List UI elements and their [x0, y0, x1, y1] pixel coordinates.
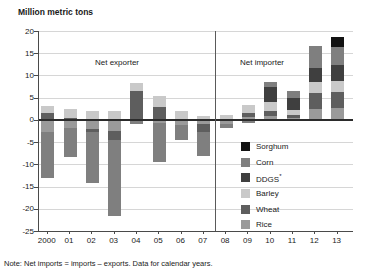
plot-area: Net exporter Net importer SorghumCornDDG… [38, 31, 353, 232]
legend-item-ddgs: DDGS* [241, 170, 288, 186]
bar-segment-rice-12 [309, 109, 322, 120]
bar-segment-sorghum-13 [331, 37, 344, 48]
gridline [39, 75, 353, 76]
bar-segment-wheat-11 [287, 115, 300, 118]
x-axis-tick [314, 231, 315, 234]
bar-segment-ddgs-11 [287, 98, 300, 110]
x-axis-tick [225, 231, 226, 234]
x-axis-label-13: 13 [322, 236, 352, 245]
y-axis-tick [34, 53, 38, 54]
y-axis-tick [34, 231, 38, 232]
y-axis-tick [34, 164, 38, 165]
gridline [39, 187, 353, 188]
legend-item-corn: Corn [241, 155, 288, 171]
bar-segment-wheat-04 [130, 91, 143, 119]
bar-segment-rice-2000 [41, 120, 54, 132]
chart-figure: Million metric tons Net exporter Net imp… [0, 0, 366, 275]
legend-item-wheat: Wheat [241, 201, 288, 217]
bar-segment-wheat-07 [197, 124, 210, 132]
exporter-importer-divider [215, 31, 216, 231]
y-axis-label: -20 [8, 204, 34, 213]
bar-segment-barley-05 [153, 96, 166, 107]
bar-segment-corn-04 [130, 121, 143, 124]
legend-label-ddgs: DDGS* [256, 173, 281, 184]
x-axis-tick [69, 231, 70, 234]
bar-segment-barley-13 [331, 81, 344, 92]
bar-segment-wheat-12 [309, 93, 322, 109]
bar-segment-barley-10 [264, 102, 277, 111]
x-axis-tick [337, 231, 338, 234]
legend-swatch-rice [241, 220, 250, 229]
legend-label-wheat: Wheat [256, 205, 279, 214]
gridline [39, 98, 353, 99]
chart-title: Million metric tons [18, 7, 93, 17]
legend-label-rice: Rice [256, 220, 272, 229]
x-axis-tick [136, 231, 137, 234]
bar-segment-corn-13 [331, 47, 344, 64]
bar-segment-corn-11 [287, 91, 300, 99]
bar-segment-wheat-03 [108, 131, 121, 140]
legend-swatch-ddgs [241, 173, 250, 182]
bar-segment-wheat-09 [242, 113, 255, 117]
gridline [39, 209, 353, 210]
legend-swatch-barley [241, 189, 250, 198]
y-axis-label: 5 [8, 93, 34, 102]
legend-swatch-corn [241, 158, 250, 167]
legend-swatch-sorghum [241, 142, 250, 151]
bar-segment-barley-09 [242, 105, 255, 113]
x-axis-tick [158, 231, 159, 234]
bar-segment-rice-13 [331, 108, 344, 120]
x-axis-tick [47, 231, 48, 234]
bar-segment-ddgs-10 [264, 87, 277, 101]
bar-segment-corn-03 [108, 140, 121, 216]
bar-segment-rice-03 [108, 120, 121, 132]
gridline [39, 53, 353, 54]
bar-segment-corn-10 [264, 82, 277, 88]
y-axis-tick [34, 75, 38, 76]
y-axis-label: 10 [8, 71, 34, 80]
legend-item-sorghum: Sorghum [241, 139, 288, 155]
bar-segment-corn-02 [86, 132, 99, 183]
zero-line [39, 119, 353, 121]
legend-item-barley: Barley [241, 186, 288, 202]
bar-segment-corn-08 [220, 124, 233, 128]
y-axis-label: -10 [8, 160, 34, 169]
y-axis-tick [34, 98, 38, 99]
bar-segment-barley-2000 [41, 106, 54, 114]
bar-segment-wheat-05 [153, 107, 166, 120]
x-axis-tick [114, 231, 115, 234]
bar-segment-barley-11 [287, 110, 300, 115]
bar-segment-rice-02 [86, 120, 99, 129]
y-axis-label: 15 [8, 49, 34, 58]
y-axis-tick [34, 31, 38, 32]
legend-label-barley: Barley [256, 189, 279, 198]
x-axis-tick [91, 231, 92, 234]
y-axis-label: -25 [8, 227, 34, 236]
x-axis-tick [181, 231, 182, 234]
net-importer-annotation: Net importer [240, 58, 284, 67]
bar-segment-corn-12 [309, 46, 322, 69]
bar-segment-corn-07 [197, 132, 210, 156]
y-axis-tick [34, 142, 38, 143]
x-axis-tick [203, 231, 204, 234]
bar-segment-corn-01 [64, 128, 77, 157]
bar-segment-corn-06 [175, 125, 188, 140]
bar-segment-wheat-13 [331, 92, 344, 108]
chart-legend: SorghumCornDDGS*BarleyWheatRice [241, 139, 288, 233]
bar-segment-corn-05 [153, 123, 166, 162]
bar-segment-rice-01 [64, 120, 77, 128]
bar-segment-barley-04 [130, 83, 143, 91]
bar-segment-ddgs-13 [331, 65, 344, 81]
bar-segment-ddgs-12 [309, 68, 322, 82]
bar-segment-wheat-10 [264, 111, 277, 116]
x-axis-tick [292, 231, 293, 234]
bar-segment-barley-01 [64, 109, 77, 117]
footnote: Note: Net imports = imports – exports. D… [4, 259, 213, 268]
y-axis-label: -15 [8, 182, 34, 191]
y-axis-tick [34, 187, 38, 188]
y-axis-label: -5 [8, 138, 34, 147]
bar-segment-corn-2000 [41, 132, 54, 178]
gridline [39, 31, 353, 32]
legend-swatch-wheat [241, 205, 250, 214]
legend-label-corn: Corn [256, 158, 273, 167]
